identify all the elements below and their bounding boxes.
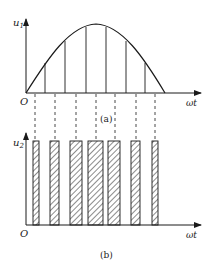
pwm-pulses — [33, 141, 158, 225]
sample-chords — [45, 27, 145, 93]
pulse-2 — [50, 141, 59, 225]
pulse-1 — [33, 141, 39, 225]
pulse-3 — [70, 141, 82, 225]
panel-b-origin-label: O — [20, 228, 28, 239]
pulse-6 — [131, 141, 140, 225]
pulse-4 — [88, 141, 103, 225]
panel-a-y-label: u1 — [13, 17, 24, 30]
panel-b: u2 O ωt (b) — [13, 133, 201, 260]
panel-b-caption: (b) — [100, 250, 113, 260]
pwm-sine-diagram: u1 O ωt (a) u2 O ωt (b) — [0, 0, 211, 271]
panel-b-x-label: ωt — [186, 230, 197, 240]
panel-a-x-label: ωt — [186, 98, 197, 108]
panel-a-origin-label: O — [20, 96, 28, 107]
panel-b-y-label: u2 — [13, 137, 24, 150]
panel-a: u1 O ωt (a) — [13, 17, 201, 124]
pulse-5 — [108, 141, 120, 225]
pulse-7 — [152, 141, 158, 225]
panel-a-caption: (a) — [100, 114, 112, 124]
sine-curve — [26, 24, 165, 93]
projection-lines — [35, 94, 155, 141]
